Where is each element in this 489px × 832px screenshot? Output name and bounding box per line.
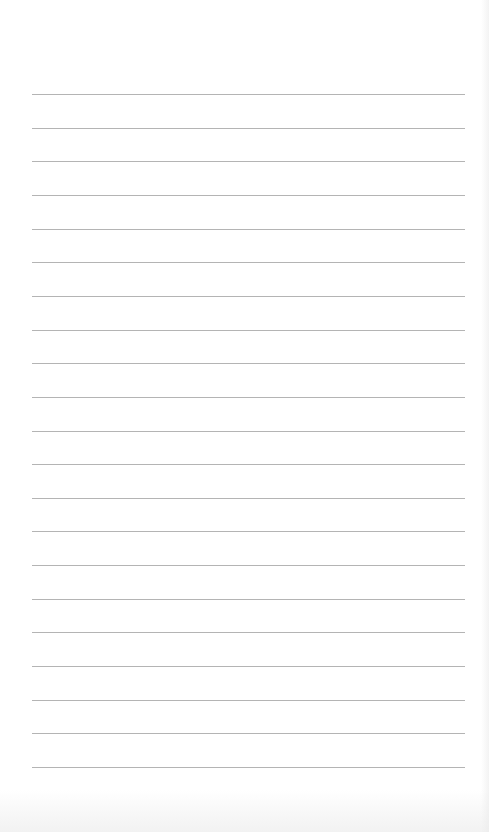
lined-paper-page: [0, 0, 489, 832]
ruled-line: [32, 296, 465, 297]
page-edge-shadow: [481, 0, 489, 832]
ruled-line: [32, 195, 465, 196]
ruled-line: [32, 397, 465, 398]
ruled-line: [32, 161, 465, 162]
ruled-line: [32, 666, 465, 667]
ruled-line: [32, 498, 465, 499]
ruled-line: [32, 94, 465, 95]
ruled-line: [32, 262, 465, 263]
ruled-line: [32, 128, 465, 129]
ruled-line: [32, 531, 465, 532]
ruled-line: [32, 330, 465, 331]
ruled-line: [32, 767, 465, 768]
ruled-line: [32, 229, 465, 230]
ruled-line: [32, 464, 465, 465]
ruled-line: [32, 632, 465, 633]
ruled-line: [32, 599, 465, 600]
ruled-line: [32, 363, 465, 364]
ruled-line: [32, 431, 465, 432]
ruled-line: [32, 700, 465, 701]
ruled-line: [32, 565, 465, 566]
ruled-line: [32, 733, 465, 734]
